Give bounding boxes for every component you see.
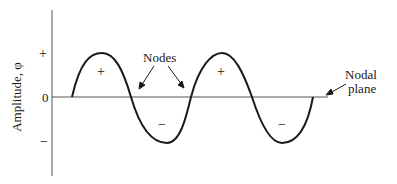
tick-label-zero: 0 [42,91,49,104]
tick-label-plus: + [39,47,47,61]
region-sign-3: + [217,65,225,79]
nodes-label: Nodes [143,51,176,64]
region-sign-1: + [97,65,105,79]
region-sign-4: − [278,118,286,132]
wave-curve [72,53,313,143]
nodal-plane-label-2: plane [348,82,376,95]
region-sign-2: − [158,118,166,132]
tick-label-minus: − [40,135,48,149]
y-axis-label: Amplitude, φ [9,62,25,132]
nodal-plane-label-1: Nodal [345,68,377,81]
wave-diagram [0,0,397,184]
node-arrows [139,66,346,95]
